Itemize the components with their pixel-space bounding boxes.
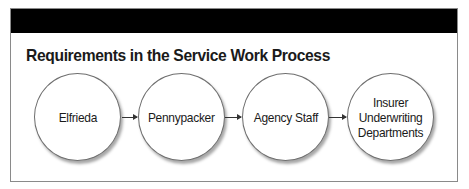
process-flow: Elfrieda Pennypacker Agency Staff Insure… xyxy=(0,0,469,189)
node-label: Pennypacker xyxy=(148,110,215,125)
node-label: Elfrieda xyxy=(58,110,96,125)
arrow-pennypacker-to-agency-staff xyxy=(225,117,241,118)
arrow-elfrieda-to-pennypacker xyxy=(122,117,137,118)
node-elfrieda: Elfrieda xyxy=(34,73,121,161)
node-insurer-underwriting-departments: Insurer Underwriting Departments xyxy=(347,73,434,161)
node-agency-staff: Agency Staff xyxy=(242,73,329,161)
node-label: Insurer Underwriting Departments xyxy=(358,95,423,140)
arrow-agency-staff-to-insurer xyxy=(329,117,346,118)
node-label: Agency Staff xyxy=(253,110,317,125)
node-pennypacker: Pennypacker xyxy=(138,73,225,161)
